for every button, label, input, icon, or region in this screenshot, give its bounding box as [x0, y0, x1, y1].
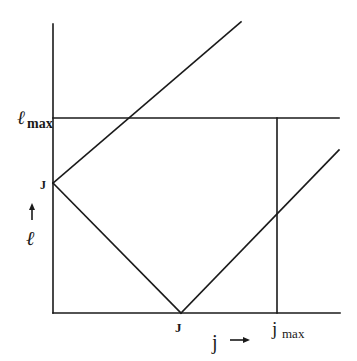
j-left-label: J	[40, 178, 46, 192]
horizontal-axis-indicator: j	[211, 331, 250, 354]
l-max-label: ℓ max	[17, 107, 53, 131]
svg-text:j: j	[211, 331, 218, 354]
vertical-axis-indicator: ℓ	[26, 203, 35, 249]
svg-text:max: max	[27, 116, 53, 131]
svg-text:ℓ: ℓ	[17, 107, 25, 128]
svg-text:j: j	[271, 318, 277, 339]
ascending-diagonal	[181, 150, 339, 313]
upper-diagonal	[53, 22, 241, 183]
right-arrow-head-icon	[243, 337, 250, 343]
descending-diagonal	[53, 183, 181, 313]
up-arrow-head-icon	[29, 203, 35, 210]
j-bottom-label: J	[175, 320, 182, 335]
diagram-canvas: ℓ max J ℓ J j j max	[0, 0, 357, 361]
j-max-label: j max	[271, 318, 305, 341]
svg-text:max: max	[282, 326, 305, 341]
svg-text:ℓ: ℓ	[26, 227, 35, 249]
